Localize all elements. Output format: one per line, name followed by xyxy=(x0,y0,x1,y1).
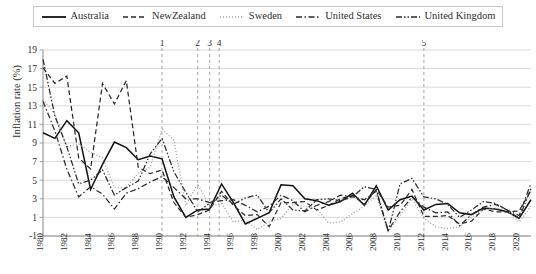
y-tick-label: 17 xyxy=(28,64,38,74)
x-tick-label: 2016 xyxy=(463,233,473,252)
line-dashdotdot-icon xyxy=(395,12,421,22)
x-tick-label: 2008 xyxy=(368,233,378,252)
x-tick-label: 1994 xyxy=(202,233,212,252)
x-tick-label: 2020 xyxy=(511,233,521,252)
legend-item-united-kingdom[interactable]: United Kingdom xyxy=(395,11,496,22)
x-tick-label: 1986 xyxy=(106,233,116,252)
data-series xyxy=(43,59,531,231)
x-tick-label: 2018 xyxy=(487,233,497,252)
plot-area: 12345 -1135791113151719 1980198219841986… xyxy=(0,40,536,274)
y-tick-label: 1 xyxy=(32,213,37,223)
y-tick-label: 3 xyxy=(32,194,37,204)
y-tick-label: 7 xyxy=(32,157,37,167)
x-tick-label: 2004 xyxy=(321,233,331,252)
x-tick-label: 1990 xyxy=(154,233,164,252)
legend-item-newzealand[interactable]: NewZealand xyxy=(122,11,206,22)
y-tick-label: 5 xyxy=(32,176,37,186)
x-tick-label: 2002 xyxy=(297,233,307,251)
series-line-australia xyxy=(43,121,531,224)
legend-label-united-kingdom: United Kingdom xyxy=(425,11,496,22)
x-tick-label: 2006 xyxy=(344,233,354,252)
line-dashed-icon xyxy=(122,12,148,22)
legend-label-newzealand: NewZealand xyxy=(152,11,206,22)
legend-item-united-states[interactable]: United States xyxy=(295,11,381,22)
event-marker-label: 1 xyxy=(160,40,165,48)
series-line-newzealand xyxy=(43,68,531,227)
x-tick-label: 1982 xyxy=(59,233,69,251)
plot-svg: 12345 -1135791113151719 1980198219841986… xyxy=(0,40,536,274)
event-marker-label: 4 xyxy=(217,40,222,48)
y-tick-label: 19 xyxy=(28,45,38,55)
chart-legend: Australia NewZealand Sweden United State… xyxy=(33,6,503,27)
line-dashdot-icon xyxy=(295,12,321,22)
y-tick-label: 9 xyxy=(32,138,37,148)
y-tick-label: 11 xyxy=(28,120,37,130)
legend-label-sweden: Sweden xyxy=(249,11,282,22)
inflation-rate-line-chart: Australia NewZealand Sweden United State… xyxy=(0,0,536,274)
x-tick-label: 2000 xyxy=(273,233,283,252)
x-tick-label: 2010 xyxy=(392,233,402,252)
series-line-united-kingdom xyxy=(43,59,531,231)
y-tick-label: 15 xyxy=(28,83,38,93)
legend-label-australia: Australia xyxy=(71,11,110,22)
legend-label-united-states: United States xyxy=(325,11,381,22)
x-tick-label: 1998 xyxy=(249,233,259,252)
line-solid-icon xyxy=(41,12,67,22)
x-tick-label: 2012 xyxy=(416,233,426,251)
event-marker-label: 3 xyxy=(207,40,212,48)
event-marker-label: 5 xyxy=(422,40,427,48)
event-marker-label: 2 xyxy=(195,40,200,48)
y-tick-label: 13 xyxy=(28,101,38,111)
line-dotted-icon xyxy=(219,12,245,22)
x-tick-label: 2014 xyxy=(440,233,450,252)
x-tick-label: 1980 xyxy=(35,233,45,252)
x-tick-labels: 1980198219841986198819901992199419961998… xyxy=(35,233,521,252)
x-tick-label: 1992 xyxy=(178,233,188,251)
y-tick-labels: -1135791113151719 xyxy=(28,45,38,241)
legend-item-australia[interactable]: Australia xyxy=(41,11,110,22)
x-tick-label: 1996 xyxy=(225,233,235,252)
x-tick-label: 1988 xyxy=(130,233,140,252)
legend-item-sweden[interactable]: Sweden xyxy=(219,11,282,22)
x-tick-label: 1984 xyxy=(83,233,93,252)
